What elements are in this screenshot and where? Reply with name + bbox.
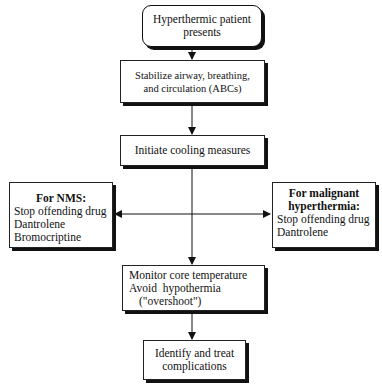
start-line2: presents [183,26,221,39]
cooling-line1: Initiate cooling measures [135,144,251,157]
monitor-line2: Avoid hypothermia [129,282,260,295]
start-node: Hyperthermic patient presents [142,5,262,47]
abcs-line1: Stabilize airway, breathing, [135,69,250,82]
start-line1: Hyperthermic patient [153,13,251,26]
nms-item: Stop offending drug [14,205,108,218]
nms-node: For NMS: Stop offending drug Dantrolene … [9,182,113,248]
complications-line1: Identify and treat [155,347,234,360]
complications-line2: complications [162,360,227,373]
mh-item: Dantrolene [277,226,371,239]
monitor-line3: ("overshoot") [129,295,260,308]
mh-item: Stop offending drug [277,213,371,226]
nms-item: Dantrolene [14,218,108,231]
abcs-line2: and circulation (ABCs) [144,82,242,95]
mh-node: For malignant hyperthermia: Stop offendi… [272,182,376,248]
monitor-line1: Monitor core temperature [129,269,260,282]
mh-title-line1: For malignant [277,187,371,200]
complications-node: Identify and treat complications [143,340,246,380]
monitor-node: Monitor core temperature Avoid hypotherm… [122,265,265,311]
nms-title: For NMS: [14,192,108,205]
abcs-node: Stabilize airway, breathing, and circula… [120,60,265,103]
nms-item: Bromocriptine [14,231,108,244]
mh-title-line2: hyperthermia: [277,200,371,213]
cooling-node: Initiate cooling measures [120,135,265,166]
